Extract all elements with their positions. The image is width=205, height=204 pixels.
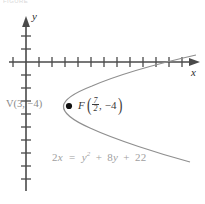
focus-y-value: −4 [105,99,117,111]
focus-comma: , [99,99,102,111]
y-axis-label: y [32,10,37,22]
focus-x-numerator: 7 [93,97,99,104]
focus-open-paren: ( [87,99,91,110]
focus-point-marker [66,103,72,109]
vertex-label: V(3, −4) [6,98,42,109]
parabola-figure: FIGURE [0,0,205,204]
focus-label: F ( 7 2 , −4 ) [78,97,123,112]
focus-x-fraction: 7 2 [92,97,99,112]
focus-letter: F [78,99,85,111]
focus-x-denominator: 2 [93,105,99,112]
x-axis-label: x [191,66,196,78]
equation-label: 2x = y2 + 8y + 22 [52,150,147,163]
focus-close-paren: ) [117,99,121,110]
equation-equals: = [69,151,76,163]
